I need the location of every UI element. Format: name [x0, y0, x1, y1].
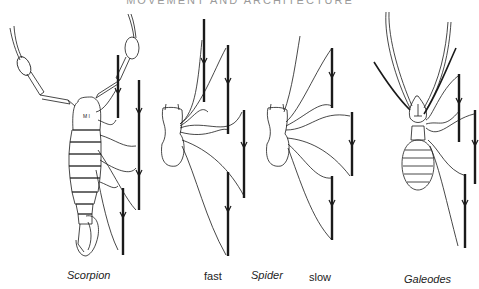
caption-scorpion: Scorpion: [67, 269, 110, 281]
spider-fast-drawing: [162, 40, 244, 255]
figure-drawing: M I: [0, 0, 479, 289]
spider-slow-drawing: [267, 36, 350, 240]
scorpion-tracks: [118, 55, 139, 255]
svg-text:M I: M I: [83, 113, 90, 119]
caption-galeodes: Galeodes: [404, 273, 451, 285]
scorpion-drawing: M I: [10, 14, 139, 256]
caption-slow: slow: [309, 271, 331, 283]
spider-slow-tracks: [332, 48, 352, 240]
caption-spider: Spider: [251, 269, 283, 281]
caption-fast: fast: [204, 270, 222, 282]
